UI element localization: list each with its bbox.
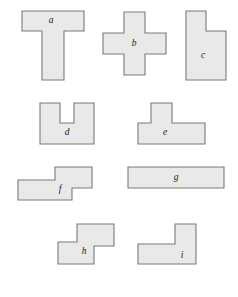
shapes-canvas: a b c d e f g h — [0, 0, 238, 297]
shape-group-b: b — [103, 12, 166, 75]
shape-group-h: h — [58, 224, 114, 264]
shape-e — [138, 103, 205, 144]
shape-label-e: e — [163, 127, 167, 137]
shape-group-a: a — [22, 11, 84, 80]
shape-label-h: h — [82, 246, 87, 256]
shape-group-i: i — [138, 224, 196, 264]
shape-c — [186, 11, 226, 80]
shape-group-e: e — [138, 103, 205, 144]
shape-label-a: a — [49, 15, 54, 25]
shape-group-d: d — [40, 103, 94, 144]
shape-label-d: d — [65, 127, 70, 137]
shape-label-i: i — [181, 250, 184, 260]
shape-group-f: f — [18, 167, 92, 200]
shape-label-b: b — [132, 38, 137, 48]
shape-group-g: g — [128, 167, 224, 188]
shape-i — [138, 224, 196, 264]
shape-h — [58, 224, 114, 264]
shape-d — [40, 103, 94, 144]
shapes-figure: a b c d e f g h — [0, 0, 238, 297]
shape-label-g: g — [174, 172, 179, 182]
shape-group-c: c — [186, 11, 226, 80]
shape-f — [18, 167, 92, 200]
